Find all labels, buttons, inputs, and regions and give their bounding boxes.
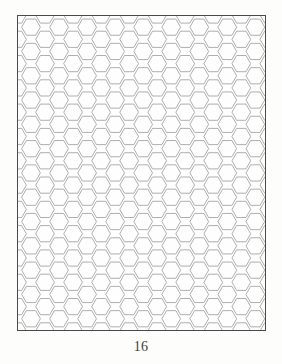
figure-plate (0, 0, 282, 364)
hexagon-grid-svg (17, 15, 266, 331)
hexagon-grid-frame (17, 15, 266, 331)
page-number: 16 (0, 338, 282, 356)
page-root: 16 (0, 0, 282, 364)
